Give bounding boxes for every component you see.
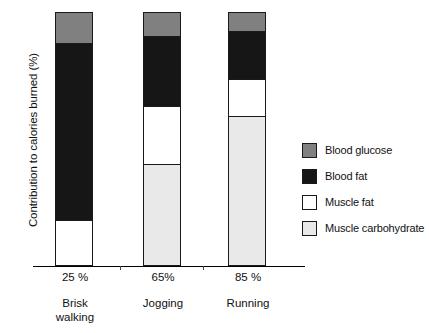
x-label-name-line1: Running (203, 296, 293, 310)
bar-jogging (143, 12, 181, 266)
legend-item-blood-fat: Blood fat (302, 168, 426, 184)
legend-label: Muscle fat (325, 196, 374, 208)
x-label-percent-running: 85 % (203, 271, 293, 283)
x-label-percent-jogging: 65% (118, 271, 208, 283)
bar-segment-blood-glucose (229, 13, 265, 31)
x-label-name-line1: Brisk (30, 296, 120, 310)
x-axis-tick (203, 266, 204, 270)
bar-running (228, 12, 266, 266)
bar-segment-blood-glucose (56, 13, 92, 43)
bar-segment-muscle-fat (56, 220, 92, 265)
bar-segment-blood-fat (56, 43, 92, 219)
bar-segment-blood-glucose (144, 13, 180, 36)
legend-item-blood-glucose: Blood glucose (302, 142, 426, 158)
bar-brisk-walking (55, 12, 93, 266)
legend-item-muscle-fat: Muscle fat (302, 194, 426, 210)
legend-swatch-icon (302, 221, 317, 236)
stacked-bar-chart: Contribution to calories burned (%) 25 %… (0, 0, 429, 333)
plot-area (33, 12, 305, 266)
x-label-percent-brisk-walking: 25 % (30, 271, 120, 283)
x-label-name-line1: Jogging (118, 296, 208, 310)
legend: Blood glucose Blood fat Muscle fat Muscl… (302, 142, 426, 246)
x-label-name-line2: walking (30, 310, 120, 324)
bar-segment-muscle-fat (229, 79, 265, 117)
x-axis-tick (120, 266, 121, 270)
bar-segment-blood-fat (144, 36, 180, 107)
legend-swatch-icon (302, 195, 317, 210)
legend-label: Blood glucose (325, 144, 392, 156)
bar-segment-blood-fat (229, 31, 265, 79)
bar-segment-muscle-fat (144, 106, 180, 164)
legend-label: Blood fat (325, 170, 367, 182)
bar-segment-muscle-carbohydrate (229, 116, 265, 265)
legend-swatch-icon (302, 143, 317, 158)
legend-item-muscle-carbohydrate: Muscle carbohydrate (302, 220, 426, 236)
x-label-name-running: Running (203, 296, 293, 310)
legend-swatch-icon (302, 169, 317, 184)
x-axis-line (33, 266, 305, 267)
x-label-name-jogging: Jogging (118, 296, 208, 310)
bar-segment-muscle-carbohydrate (144, 164, 180, 265)
legend-label: Muscle carbohydrate (325, 222, 424, 234)
x-label-name-brisk-walking: Brisk walking (30, 296, 120, 324)
